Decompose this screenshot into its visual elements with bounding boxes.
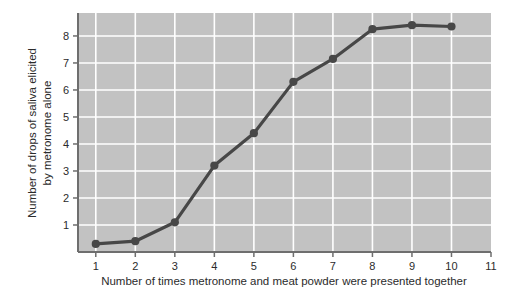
- y-tick-label: 2: [63, 192, 69, 204]
- x-tick-label: 1: [93, 260, 99, 272]
- x-tick-label: 2: [132, 260, 138, 272]
- x-tick-label: 4: [211, 260, 217, 272]
- x-tick-label: 10: [445, 260, 457, 272]
- y-axis-title-line-1: Number of drops of saliva elicited: [26, 48, 38, 218]
- x-tick-label: 5: [251, 260, 257, 272]
- x-tick-label: 3: [172, 260, 178, 272]
- data-point-marker: [131, 237, 139, 245]
- y-axis-title-line-2: by metronome alone: [41, 81, 53, 186]
- y-tick-label: 3: [63, 165, 69, 177]
- y-tick-label: 1: [63, 219, 69, 231]
- data-point-marker: [92, 240, 100, 248]
- y-tick-label: 4: [63, 138, 69, 150]
- data-point-marker: [329, 55, 337, 63]
- data-point-marker: [250, 129, 258, 137]
- data-point-marker: [171, 218, 179, 226]
- y-tick-label: 8: [63, 30, 69, 42]
- y-tick-label: 6: [63, 84, 69, 96]
- data-point-marker: [408, 21, 416, 29]
- plot-background: [78, 13, 491, 252]
- x-axis-title: Number of times metronome and meat powde…: [101, 275, 467, 287]
- data-point-marker: [289, 78, 297, 86]
- x-tick-label: 11: [485, 260, 496, 272]
- x-tick-label: 8: [369, 260, 375, 272]
- chart-figure: 123456781234567891011 Number of times me…: [0, 0, 521, 291]
- y-tick-label: 7: [63, 57, 69, 69]
- x-tick-label: 6: [290, 260, 296, 272]
- x-tick-label: 9: [409, 260, 415, 272]
- y-tick-label: 5: [63, 111, 69, 123]
- x-tick-label: 7: [330, 260, 336, 272]
- data-point-marker: [447, 22, 455, 30]
- line-chart: 123456781234567891011 Number of times me…: [0, 0, 521, 291]
- plot-area: [78, 13, 491, 252]
- data-point-marker: [368, 25, 376, 33]
- data-point-marker: [210, 161, 218, 169]
